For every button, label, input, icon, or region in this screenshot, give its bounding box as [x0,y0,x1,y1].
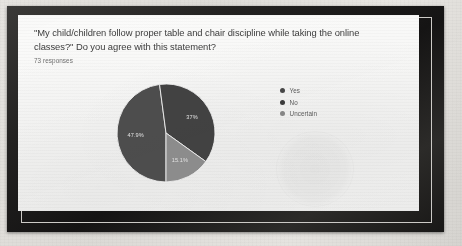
legend-item-yes[interactable]: Yes [280,85,317,97]
pie-chart[interactable]: 47.9%37%15.1% [116,83,216,183]
pie-chart-area: 47.9%37%15.1% YesNoUncertain [18,15,419,211]
pie-chart-svg: 47.9%37%15.1% [116,83,216,183]
legend-color-dot-icon [280,111,285,116]
legend-item-label: Uncertain [290,110,317,117]
pie-slice-percent-label: 15.1% [172,157,188,163]
legend-item-no[interactable]: No [280,97,317,109]
screenshot-root: "My child/children follow proper table a… [0,0,462,246]
survey-result-card: "My child/children follow proper table a… [18,15,419,211]
legend-color-dot-icon [280,100,285,105]
chart-legend: YesNoUncertain [280,85,317,120]
pie-slice-percent-label: 37% [186,114,198,120]
scan-ghost-circle-artifact [276,131,354,207]
legend-item-label: Yes [290,87,300,94]
legend-color-dot-icon [280,88,285,93]
legend-item-uncertain[interactable]: Uncertain [280,108,317,120]
pie-slice-percent-label: 47.9% [128,132,144,138]
legend-item-label: No [290,99,298,106]
